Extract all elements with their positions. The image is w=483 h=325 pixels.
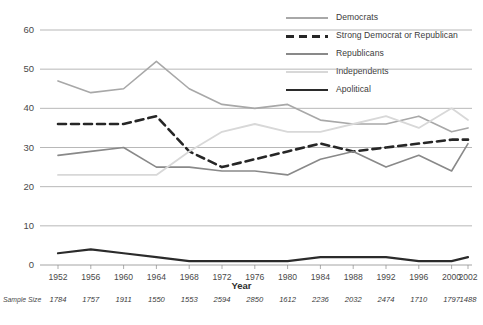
- y-axis-label-40: 40: [12, 102, 34, 113]
- sample-size-1980: 1612: [279, 295, 296, 304]
- sample-size-1984: 2236: [312, 295, 329, 304]
- sample-size-1996: 1710: [410, 295, 427, 304]
- series-line-apolitical: [58, 249, 468, 261]
- sample-size-1972: 2594: [214, 295, 231, 304]
- y-axis-label-60: 60: [12, 24, 34, 35]
- sample-size-1964: 1550: [148, 295, 165, 304]
- sample-size-1988: 2032: [345, 295, 362, 304]
- sample-size-2000: 1797: [443, 295, 460, 304]
- sample-size-1952: 1784: [50, 295, 67, 304]
- y-axis-label-20: 20: [12, 181, 34, 192]
- y-axis-label-0: 0: [12, 259, 34, 270]
- sample-size-1956: 1757: [82, 295, 99, 304]
- sample-size-1960: 1911: [115, 295, 131, 304]
- political-party-identification-chart: DemocratsStrong Democrat or RepublicanRe…: [0, 0, 483, 325]
- y-axis-label-10: 10: [12, 220, 34, 231]
- plot-area: 0102030405060 19521956196019641968197219…: [0, 0, 483, 325]
- sample-size-1976: 2850: [246, 295, 263, 304]
- sample-size-1968: 1553: [181, 295, 198, 304]
- sample-size-caption: Sample Size: [3, 296, 41, 303]
- series-line-democrats: [58, 61, 468, 132]
- x-axis-title: Year: [0, 280, 483, 291]
- sample-size-1992: 2474: [378, 295, 395, 304]
- y-axis-label-30: 30: [12, 142, 34, 153]
- series-line-republicans: [58, 144, 468, 175]
- sample-size-2002: 1488: [460, 295, 477, 304]
- y-axis-label-50: 50: [12, 63, 34, 74]
